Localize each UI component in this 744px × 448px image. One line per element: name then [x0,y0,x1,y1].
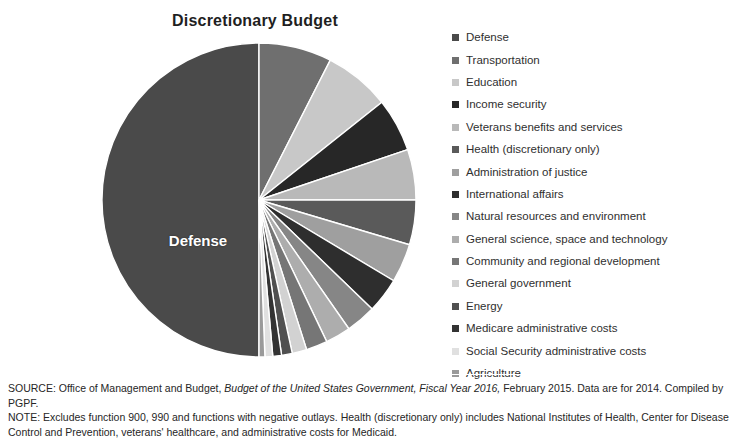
legend-item-label: General science, space and technology [466,233,667,245]
legend-item-label: Community and regional development [466,255,660,267]
legend-item: Social Security administrative costs [452,339,740,361]
legend-item-label: General government [466,277,571,289]
divider [0,374,744,375]
legend-swatch-icon [452,79,459,86]
legend-item-label: Income security [466,98,547,110]
legend-item: Community and regional development [452,250,740,272]
legend-swatch-icon [452,124,459,131]
legend-item: Income security [452,93,740,115]
footnote-source: SOURCE: Office of Management and Budget,… [8,381,738,410]
legend-swatch-icon [452,191,459,198]
legend-item-label: Energy [466,300,502,312]
legend-item: Administration of justice [452,160,740,182]
legend-swatch-icon [452,34,459,41]
discretionary-budget-figure: Discretionary Budget Defense DefenseTran… [0,0,744,448]
legend-swatch-icon [452,280,459,287]
legend-item: General government [452,272,740,294]
legend-item: Energy [452,295,740,317]
legend-swatch-icon [452,348,459,355]
pie-slice-group [102,43,416,357]
legend-item: Defense [452,26,740,48]
legend-swatch-icon [452,146,459,153]
pie-slice [102,43,259,357]
legend-swatch-icon [452,258,459,265]
legend-item: Transportation [452,48,740,70]
legend-item-label: International affairs [466,188,564,200]
legend-swatch-icon [452,303,459,310]
legend-item: Natural resources and environment [452,205,740,227]
legend-swatch-icon [452,325,459,332]
legend-swatch-icon [452,57,459,64]
footnote-note: NOTE: Excludes function 900, 990 and fun… [8,410,738,439]
legend-item-label: Administration of justice [466,166,587,178]
legend-item: Health (discretionary only) [452,138,740,160]
legend-item-label: Natural resources and environment [466,210,646,222]
legend-item: International affairs [452,183,740,205]
legend-swatch-icon [452,169,459,176]
pie-chart: Defense [101,42,417,358]
legend-swatch-icon [452,101,459,108]
footnote-source-prefix: SOURCE: Office of Management and Budget, [8,382,224,394]
legend-item-label: Health (discretionary only) [466,143,600,155]
pie-chart-svg [101,42,417,358]
legend-item-label: Social Security administrative costs [466,345,646,357]
legend-item-label: Medicare administrative costs [466,322,617,334]
legend-item-label: Defense [466,31,509,43]
footnote-source-title: Budget of the United States Government, … [224,382,500,394]
legend-swatch-icon [452,213,459,220]
legend-item-label: Transportation [466,54,540,66]
page-title: Discretionary Budget [120,12,390,30]
legend-item: Veterans benefits and services [452,116,740,138]
footnote: SOURCE: Office of Management and Budget,… [8,381,738,439]
legend-swatch-icon [452,236,459,243]
legend-item-label: Education [466,76,517,88]
legend-item-label: Veterans benefits and services [466,121,623,133]
legend-item: Education [452,71,740,93]
chart-legend: DefenseTransportationEducationIncome sec… [452,26,740,384]
legend-item: Medicare administrative costs [452,317,740,339]
legend-item: General science, space and technology [452,228,740,250]
